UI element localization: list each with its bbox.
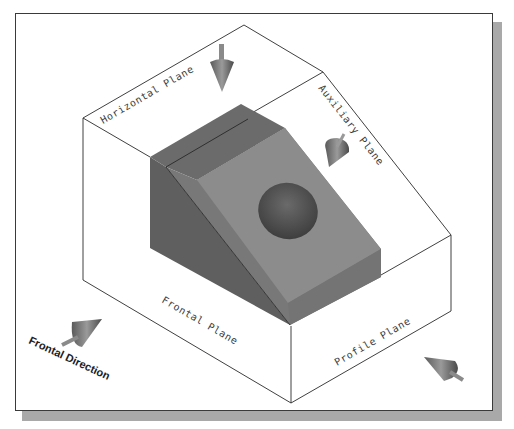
box-top-left-edge (83, 118, 150, 157)
auxiliary-view-arrow-icon (325, 134, 349, 167)
profile-plane-bottom-edge (291, 311, 451, 403)
profile-plane-top-edge (381, 235, 451, 275)
horizontal-plane-label: Horizontal Plane (99, 63, 196, 125)
isometric-projection-diagram: Horizontal Plane Auxiliary Plane Frontal… (0, 0, 514, 429)
profile-view-arrow-icon (424, 357, 463, 381)
profile-plane-label: Profile Plane (333, 315, 413, 368)
solid-block (150, 104, 381, 325)
frontal-plane-label: Frontal Plane (160, 294, 240, 347)
frontal-view-arrow-icon (62, 319, 102, 347)
horizontal-view-arrow-icon (210, 44, 234, 92)
